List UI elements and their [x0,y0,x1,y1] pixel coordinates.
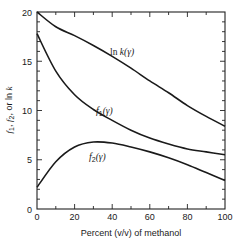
f2-label: f2(γ) [89,151,106,163]
y-tick-label: 5 [27,155,32,165]
x-tick-label: 100 [217,212,232,222]
axis-ticks: 02040608010005101520 [22,8,233,223]
y-tick-label: 15 [22,57,32,67]
y-tick-label: 10 [22,106,32,116]
x-tick-label: 20 [70,212,80,222]
x-axis-label: Percent (v/v) of methanol [81,228,182,238]
x-tick-label: 40 [107,212,117,222]
f1-label: f1(γ) [96,105,113,117]
y-tick-label: 0 [27,205,32,215]
x-tick-label: 0 [34,212,39,222]
ln-k-curve [37,12,225,126]
f2-curve [37,142,225,188]
y-tick-label: 20 [22,8,32,18]
x-tick-label: 80 [182,212,192,222]
x-tick-label: 60 [145,212,155,222]
line-chart: 02040608010005101520 ln k(γ)f1(γ)f2(γ) P… [0,0,241,242]
y-axis-label: f1, f2, or ln k [4,86,15,134]
data-curves [37,12,225,187]
ln-k-label: ln k(γ) [110,47,134,58]
